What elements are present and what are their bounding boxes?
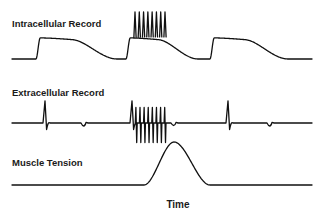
panel-label-intracellular: Intracellular Record: [12, 18, 101, 29]
x-axis-label: Time: [166, 199, 190, 210]
panel-label-muscle-tension: Muscle Tension: [12, 157, 83, 168]
physiology-chart: Intracellular Record Extracellular Recor…: [0, 0, 330, 215]
extracellular-trace: [12, 101, 312, 143]
panel-label-extracellular: Extracellular Record: [12, 87, 105, 98]
